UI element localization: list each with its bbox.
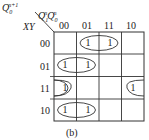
figure-caption: (b)	[66, 128, 78, 138]
cell-01-01: 1	[83, 60, 93, 70]
cell-00-01: 1	[83, 38, 93, 48]
kmap-grid	[0, 0, 149, 140]
cell-01-00: 1	[60, 60, 70, 70]
cell-00-11: 1	[105, 38, 115, 48]
cell-10-00: 1	[60, 105, 70, 115]
header-diagonal-line	[35, 12, 54, 32]
cell-11-10: 1	[128, 83, 138, 93]
cell-11-00: 1	[60, 83, 70, 93]
cell-10-01: 1	[83, 105, 93, 115]
